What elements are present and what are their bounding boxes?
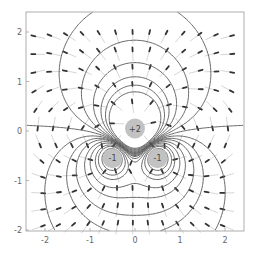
x-axis-ticks: -2-1012 — [41, 228, 228, 245]
charge-marker: -1 — [103, 148, 123, 168]
y-tick-label: -1 — [14, 177, 22, 186]
charge-label: +2 — [129, 125, 141, 134]
x-tick-label: 0 — [132, 236, 137, 245]
x-tick-label: -1 — [86, 236, 94, 245]
x-tick-label: -2 — [41, 236, 49, 245]
y-tick-label: 1 — [17, 78, 22, 87]
field-plot: +2-1-1 -2-1012 -2-1012 — [0, 0, 260, 260]
x-tick-label: 2 — [222, 236, 227, 245]
y-tick-label: 0 — [17, 127, 22, 136]
charge-marker: -1 — [148, 148, 168, 168]
charge-marker: +2 — [125, 119, 145, 139]
charge-label: -1 — [109, 154, 117, 163]
y-tick-label: 2 — [17, 28, 22, 37]
y-tick-label: -2 — [14, 226, 22, 235]
x-tick-label: 1 — [177, 236, 182, 245]
charge-label: -1 — [154, 154, 162, 163]
y-axis-ticks: -2-1012 — [14, 28, 29, 235]
